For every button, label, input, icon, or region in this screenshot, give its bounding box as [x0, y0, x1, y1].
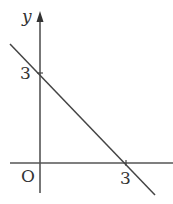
x-intercept-label: 3: [120, 170, 131, 187]
y-intercept-label: 3: [20, 65, 31, 82]
y-axis-arrow-icon: [37, 11, 44, 22]
origin-label: O: [21, 168, 35, 185]
y-axis-label: y: [22, 8, 32, 25]
